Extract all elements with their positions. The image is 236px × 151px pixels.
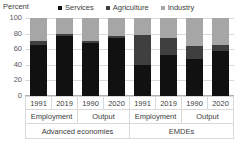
- x-year-cell: 2019: [51, 96, 77, 109]
- plot-area: [25, 18, 234, 96]
- legend-label: Services: [65, 4, 94, 12]
- bar-segment-services: [30, 45, 47, 96]
- bar-segment-industry: [134, 18, 151, 35]
- legend-square-icon: [161, 6, 165, 10]
- bar-segment-industry: [160, 18, 177, 38]
- bar-segment-agriculture: [134, 35, 151, 65]
- legend-item-services[interactable]: Services: [58, 4, 94, 12]
- bar-slot: [208, 18, 234, 96]
- x-group-cell-advanced-economies: Advanced economies: [25, 123, 129, 139]
- x-measure-cell: Output: [181, 109, 234, 123]
- stacked-bar[interactable]: [108, 18, 125, 96]
- bar-segment-services: [186, 59, 203, 96]
- y-tick-0: 0: [18, 92, 22, 100]
- y-axis-title: Percent: [3, 2, 29, 11]
- bar-segment-services: [160, 55, 177, 96]
- y-tick-100: 100: [9, 14, 22, 22]
- x-measure-cell: Employment: [25, 109, 77, 123]
- stacked-bar[interactable]: [212, 18, 229, 96]
- bar-slot: [25, 18, 51, 96]
- x-axis-year-row: 1991 2019 1990 2020 1991 2019 1990 2020: [25, 96, 234, 109]
- bar-segment-industry: [82, 18, 99, 41]
- stacked-bar[interactable]: [186, 18, 203, 96]
- stacked-bar[interactable]: [82, 18, 99, 96]
- bar-slot: [130, 18, 156, 96]
- bar-segment-agriculture: [160, 38, 177, 55]
- bar-segment-services: [212, 51, 229, 96]
- chart-legend: Services Agriculture Industry: [58, 2, 234, 14]
- y-tick-20: 20: [14, 77, 22, 85]
- x-axis-group-row: Advanced economies EMDEs: [25, 123, 234, 139]
- bar-slot: [77, 18, 103, 96]
- bar-slot: [182, 18, 208, 96]
- x-year-cell: 2019: [155, 96, 181, 109]
- y-axis-tick-labels: 100 80 60 40 20 0: [0, 14, 24, 96]
- bar-container: [25, 18, 234, 96]
- x-measure-cell: Employment: [129, 109, 181, 123]
- legend-label: Agriculture: [113, 4, 149, 12]
- stacked-bar[interactable]: [160, 18, 177, 96]
- legend-square-icon: [58, 6, 62, 10]
- bar-segment-services: [82, 43, 99, 96]
- legend-item-agriculture[interactable]: Agriculture: [106, 4, 149, 12]
- x-group-cell-emdes: EMDEs: [129, 123, 234, 139]
- x-year-cell: 1991: [129, 96, 155, 109]
- stacked-bar[interactable]: [56, 18, 73, 96]
- bar-slot: [51, 18, 77, 96]
- legend-square-icon: [106, 6, 110, 10]
- bar-segment-industry: [212, 18, 229, 45]
- stacked-bar[interactable]: [30, 18, 47, 96]
- plot-wrapper: 100 80 60 40 20 0: [0, 14, 236, 104]
- x-axis-measure-row: Employment Output Employment Output: [25, 109, 234, 123]
- legend-item-industry[interactable]: Industry: [161, 4, 195, 12]
- x-year-cell: 2020: [207, 96, 234, 109]
- bar-segment-industry: [186, 18, 203, 46]
- bar-slot: [103, 18, 129, 96]
- bar-segment-services: [56, 36, 73, 96]
- x-year-cell: 1991: [25, 96, 51, 109]
- bar-segment-agriculture: [186, 46, 203, 58]
- x-measure-cell: Output: [77, 109, 129, 123]
- bar-segment-services: [134, 65, 151, 96]
- stacked-bar-chart: Percent Services Agriculture Industry 10…: [0, 0, 236, 151]
- y-tick-60: 60: [14, 45, 22, 53]
- y-tick-40: 40: [14, 61, 22, 69]
- legend-label: Industry: [168, 4, 195, 12]
- x-year-cell: 1990: [77, 96, 103, 109]
- bar-segment-industry: [108, 18, 125, 36]
- y-tick-80: 80: [14, 30, 22, 38]
- bar-segment-services: [108, 38, 125, 97]
- x-year-cell: 2020: [103, 96, 129, 109]
- stacked-bar[interactable]: [134, 18, 151, 96]
- bar-segment-industry: [30, 18, 47, 41]
- bar-segment-industry: [56, 18, 73, 34]
- x-year-cell: 1990: [181, 96, 207, 109]
- bar-slot: [156, 18, 182, 96]
